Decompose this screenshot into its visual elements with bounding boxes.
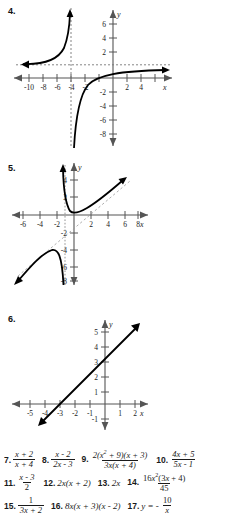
y-tick-label: 2 bbox=[94, 373, 98, 382]
x-tick-label: -2 bbox=[72, 409, 78, 418]
y-axis-arrow-down bbox=[102, 422, 109, 430]
fraction-denominator: 3x + 2 bbox=[18, 505, 44, 515]
figure-4: 4. bbox=[0, 0, 250, 148]
y-tick-label: 1 bbox=[94, 388, 98, 397]
y-axis-label: y bbox=[108, 320, 113, 329]
curve-branch-right bbox=[74, 70, 165, 148]
y-axis-arrow-down bbox=[110, 138, 117, 146]
answer-number: 7. bbox=[4, 455, 11, 465]
curve-branch-upper bbox=[63, 169, 122, 213]
answer-item-14: 14. 16x2(3x + 4) 45 bbox=[127, 472, 187, 493]
figure-5: 5. bbox=[0, 155, 250, 285]
x-tick-label: 2 bbox=[125, 83, 129, 92]
fraction: 1 3x + 2 bbox=[18, 496, 44, 515]
answer-item-16: 16. 8x(x + 3)(x - 2) bbox=[51, 501, 120, 511]
x-tick-label: 2 bbox=[89, 220, 93, 229]
y-axis-arrow-up bbox=[71, 163, 78, 171]
answer-key: 7. x + 2 x + 4 8. x - 2 2x - 3 9. 2(x2 +… bbox=[0, 448, 250, 517]
x-tick-label: -6 bbox=[20, 220, 26, 229]
answer-item-10: 10. 4x + 5 5x - 1 bbox=[156, 450, 196, 469]
y-tick-label: -6 bbox=[100, 116, 106, 125]
y-tick-label: 5 bbox=[94, 328, 98, 337]
answer-row: 7. x + 2 x + 4 8. x - 2 2x - 3 9. 2(x2 +… bbox=[4, 448, 246, 471]
answer-item-17: 17. y = - 10 x bbox=[127, 496, 173, 515]
answer-item-11: 11. x - 3 2 bbox=[4, 473, 36, 492]
figure-6-graph: -5 -4 -3 -2 -1 1 2 5 4 3 2 1 -1 x y bbox=[0, 292, 250, 432]
answer-item-7: 7. x + 2 x + 4 bbox=[4, 450, 35, 469]
x-tick-label: -2 bbox=[54, 220, 60, 229]
fraction-denominator: 2 bbox=[23, 482, 31, 492]
fraction-denominator: 45 bbox=[158, 483, 171, 493]
x-tick-label: 1 bbox=[118, 409, 122, 418]
fraction-numerator: 4x + 5 bbox=[170, 450, 196, 459]
x-axis-label: x bbox=[139, 409, 144, 418]
answer-number: 11. bbox=[4, 478, 15, 488]
figure-5-graph: -6 -4 -2 2 4 6 8 4 2 -2 -4 -6 -8 x y bbox=[0, 155, 250, 285]
y-tick-label: 4 bbox=[102, 34, 106, 43]
x-tick-label: 4 bbox=[106, 220, 110, 229]
y-axis-arrow-up bbox=[102, 320, 109, 328]
curve-arrow-left bbox=[21, 61, 29, 69]
fraction-denominator: x + 4 bbox=[13, 459, 35, 469]
x-tick-label: -4 bbox=[37, 220, 43, 229]
expression-prefix: y = - bbox=[141, 501, 159, 511]
x-tick-label: -5 bbox=[27, 409, 33, 418]
fraction-denominator: 2x - 3 bbox=[51, 459, 74, 469]
fraction: 4x + 5 5x - 1 bbox=[170, 450, 196, 469]
x-axis-arrow-left bbox=[14, 75, 22, 82]
expression: 2x(x + 2) bbox=[57, 478, 91, 488]
answer-number: 15. bbox=[4, 501, 16, 511]
x-tick-label: -10 bbox=[24, 83, 34, 92]
y-tick-label: -4 bbox=[100, 102, 106, 111]
figure-4-graph: -10 -8 -6 -4 -2 2 4 6 4 2 -2 -4 -6 -8 x … bbox=[0, 0, 250, 148]
x-tick-label: -8 bbox=[40, 83, 46, 92]
x-tick-label: 6 bbox=[123, 220, 127, 229]
fraction-numerator: x - 3 bbox=[17, 473, 36, 482]
y-tick-label: 4 bbox=[94, 343, 98, 352]
y-tick-label: 6 bbox=[102, 20, 106, 29]
answer-item-15: 15. 1 3x + 2 bbox=[4, 496, 44, 515]
y-axis-label: y bbox=[77, 163, 82, 172]
fraction: x + 2 x + 4 bbox=[13, 450, 35, 469]
fraction: x - 2 2x - 3 bbox=[51, 450, 74, 469]
figure-5-label: 5. bbox=[8, 163, 16, 173]
answer-number: 12. bbox=[43, 478, 55, 488]
x-tick-labels: -5 -4 -3 -2 -1 1 2 bbox=[27, 409, 137, 418]
figure-6: 6. bbox=[0, 292, 250, 432]
curve-arrow-up bbox=[67, 9, 74, 17]
axes bbox=[12, 163, 148, 285]
fraction-denominator: 3x(x + 4) bbox=[102, 460, 138, 470]
fraction-numerator: x - 2 bbox=[53, 450, 72, 459]
x-axis-arrow-right bbox=[140, 212, 148, 219]
answer-number: 14. bbox=[127, 477, 139, 487]
x-axis-arrow-right bbox=[140, 401, 148, 408]
fraction-denominator: x bbox=[163, 505, 171, 515]
x-tick-label: -4 bbox=[68, 83, 74, 92]
expression: 2x bbox=[112, 478, 121, 488]
fraction-numerator: x + 2 bbox=[13, 450, 35, 459]
y-tick-label: -2 bbox=[100, 88, 106, 97]
x-axis-label: x bbox=[139, 220, 144, 229]
x-axis-label: x bbox=[162, 83, 167, 92]
answer-item-12: 12. 2x(x + 2) bbox=[43, 478, 90, 488]
x-axis-arrow-left bbox=[12, 401, 20, 408]
x-axis-arrow-right bbox=[164, 75, 172, 82]
fraction-numerator: 2(x2 + 9)(x + 3) bbox=[91, 449, 150, 460]
x-tick-label: -6 bbox=[54, 83, 60, 92]
fraction-numerator: 10 bbox=[161, 496, 174, 505]
curve-branch-lower bbox=[18, 250, 64, 285]
fraction-numerator: 1 bbox=[27, 496, 35, 505]
answer-number: 17. bbox=[127, 501, 139, 511]
y-axis-label: y bbox=[116, 10, 121, 19]
y-tick-label: -8 bbox=[100, 130, 106, 139]
answer-number: 10. bbox=[156, 455, 168, 465]
figure-4-label: 4. bbox=[8, 6, 16, 16]
y-tick-label: -1 bbox=[92, 415, 98, 424]
x-tick-labels: -6 -4 -2 2 4 6 8 bbox=[20, 220, 140, 229]
y-axis-arrow-up bbox=[110, 10, 117, 18]
fraction: x - 3 2 bbox=[17, 473, 36, 492]
y-tick-label: -4 bbox=[61, 246, 67, 255]
y-tick-labels: 6 4 2 -2 -4 -6 -8 bbox=[100, 20, 107, 139]
answer-number: 9. bbox=[82, 454, 89, 464]
fraction: 2(x2 + 9)(x + 3) 3x(x + 4) bbox=[91, 449, 150, 470]
